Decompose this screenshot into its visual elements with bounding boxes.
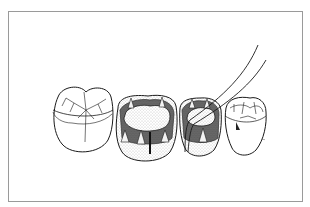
dental-illustration: [0, 0, 310, 207]
tooth-3: [180, 98, 222, 156]
tooth-1: [53, 87, 113, 152]
tooth-2: [116, 95, 177, 161]
tooth-4: [225, 97, 266, 155]
